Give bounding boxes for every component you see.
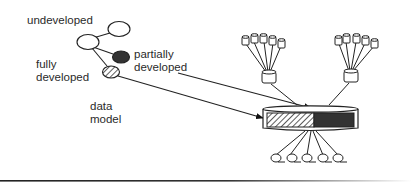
- tree-node-partial-icon: [113, 51, 130, 63]
- label-partially-line1: partially: [134, 48, 174, 61]
- client-nodes: [271, 131, 347, 162]
- db-segment-fully-developed: [267, 113, 314, 127]
- diagram-canvas: [0, 0, 412, 182]
- bottom-rule: [0, 180, 412, 182]
- left-storage-cluster: [242, 34, 297, 105]
- tree-node-root-icon: [77, 35, 99, 50]
- tree-node-full-icon: [103, 66, 120, 78]
- label-fully-line1: fully: [36, 58, 56, 71]
- label-undeveloped: undeveloped: [27, 14, 93, 27]
- db-segment-partially-developed: [314, 113, 354, 127]
- arrow-partial-to-db: [178, 73, 311, 108]
- tree-node-top-icon: [108, 22, 130, 37]
- label-partially-line2: developed: [134, 61, 187, 74]
- arrow-full-to-db: [118, 76, 263, 118]
- right-storage-cluster: [329, 34, 378, 105]
- label-fully-line2: developed: [36, 71, 89, 84]
- database-disk-icon: [263, 106, 358, 131]
- label-model-line1: data: [90, 100, 112, 113]
- label-model-line2: model: [90, 113, 121, 126]
